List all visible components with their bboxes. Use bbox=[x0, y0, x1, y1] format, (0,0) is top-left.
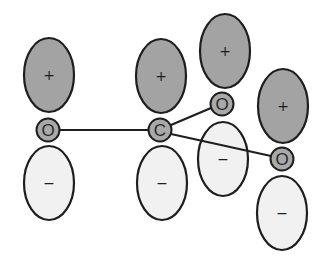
plus-sign: + bbox=[219, 43, 231, 59]
plus-sign: + bbox=[277, 98, 289, 114]
bond-c-o-upper bbox=[171, 108, 211, 125]
minus-sign: − bbox=[217, 151, 229, 167]
atom-label: C bbox=[154, 121, 166, 140]
p-orbital-diagram: + − + − + − + − O C O bbox=[0, 0, 324, 266]
atom-label: O bbox=[215, 95, 228, 114]
minus-sign: − bbox=[276, 205, 288, 221]
minus-sign: − bbox=[156, 175, 168, 191]
plus-sign: + bbox=[155, 68, 167, 84]
atom-o-lower: O bbox=[271, 148, 294, 171]
atom-label: O bbox=[41, 121, 54, 140]
plus-sign: + bbox=[43, 67, 55, 83]
atom-label: O bbox=[275, 150, 288, 169]
atom-o-left: O bbox=[37, 119, 60, 142]
atom-o-upper: O bbox=[211, 93, 234, 116]
atom-c-center: C bbox=[149, 119, 172, 142]
minus-sign: − bbox=[43, 175, 55, 191]
